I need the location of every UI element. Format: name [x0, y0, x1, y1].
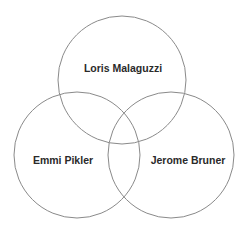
label-jerome-bruner: Jerome Bruner: [151, 154, 226, 166]
label-emmi-pikler: Emmi Pikler: [33, 154, 93, 166]
label-loris-malaguzzi: Loris Malaguzzi: [84, 62, 162, 74]
circle-loris-malaguzzi: [58, 16, 186, 144]
venn-diagram: Loris Malaguzzi Emmi Pikler Jerome Brune…: [0, 0, 247, 230]
